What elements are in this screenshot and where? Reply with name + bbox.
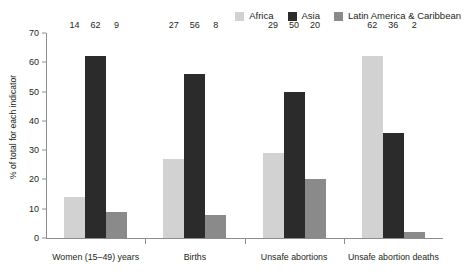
y-axis-tick: 30 [29,146,46,155]
x-axis-tick-mark [145,239,146,244]
bar-group-bars: 14629 [46,33,145,238]
x-axis-category-label: Births [184,246,207,263]
x-axis-tick-mark [245,239,246,244]
bar-chart: % of total for each indicator 0102030405… [0,26,467,274]
y-axis-tick-label: 20 [29,175,39,184]
bar[interactable]: 8 [205,33,226,238]
bar-rect [85,56,106,238]
bar-rect [404,232,425,238]
y-axis-title: % of total for each indicator [8,52,18,202]
bar[interactable]: 2 [404,33,425,238]
bar-value-label: 9 [114,20,119,31]
bar-rect [383,133,404,238]
legend-swatch-icon [235,12,244,21]
y-axis-tick: 40 [29,116,46,125]
bar-value-label: 20 [310,20,320,31]
bar[interactable]: 20 [305,33,326,238]
bar[interactable]: 36 [383,33,404,238]
bar[interactable]: 62 [362,33,383,238]
bar-group-bars: 62362 [344,33,443,238]
bar-rect [205,215,226,238]
bar-value-label: 50 [289,20,299,31]
bar[interactable]: 9 [106,33,127,238]
bar-group: 27568Births [145,33,244,238]
bar-value-label: 8 [213,20,218,31]
bar-rect [64,197,85,238]
bar-group: 295020Unsafe abortions [245,33,344,238]
bar-rect [106,212,127,238]
y-axis-tick: 0 [34,234,46,243]
bar-rect [184,74,205,238]
y-axis-tick: 50 [29,87,46,96]
bar-group-bars: 295020 [245,33,344,238]
x-axis-category-label: Unsafe abortions [261,246,328,263]
bar-value-label: 29 [268,20,278,31]
bar-value-label: 56 [190,20,200,31]
bar-rect [263,153,284,238]
y-axis-tick: 10 [29,204,46,213]
y-axis-tick: 70 [29,29,46,38]
bar-rect [284,92,305,238]
bar-rect [362,56,383,238]
y-axis-tick: 60 [29,58,46,67]
bar-value-label: 14 [70,20,80,31]
y-axis-tick-label: 70 [29,29,39,38]
bar-group: 14629Women (15–49) years [46,33,145,238]
y-axis-tick-label: 10 [29,204,39,213]
legend-swatch-icon [334,12,343,21]
bar[interactable]: 56 [184,33,205,238]
bar-group-bars: 27568 [145,33,244,238]
plot-area: 01020304050607014629Women (15–49) years2… [46,33,443,238]
bar-value-label: 62 [367,20,377,31]
bar-value-label: 2 [412,20,417,31]
x-axis-category-label: Women (15–49) years [52,246,139,263]
bar-value-label: 36 [388,20,398,31]
bar-rect [163,159,184,238]
y-axis-tick-label: 60 [29,58,39,67]
bar[interactable]: 62 [85,33,106,238]
x-axis-tick-mark [344,239,345,244]
bar[interactable]: 27 [163,33,184,238]
y-axis-tick-label: 50 [29,87,39,96]
bar-rect [305,179,326,238]
bar-group: 62362Unsafe abortion deaths [344,33,443,238]
y-axis-tick-label: 40 [29,116,39,125]
y-axis-tick: 20 [29,175,46,184]
y-axis-tick-label: 0 [34,234,39,243]
bar-value-label: 27 [169,20,179,31]
bar-value-label: 62 [91,20,101,31]
bar[interactable]: 14 [64,33,85,238]
legend-item-label: Latin America & Caribbean [348,11,461,21]
bar[interactable]: 29 [263,33,284,238]
x-axis-category-label: Unsafe abortion deaths [348,246,439,263]
bar[interactable]: 50 [284,33,305,238]
y-axis-tick-label: 30 [29,146,39,155]
